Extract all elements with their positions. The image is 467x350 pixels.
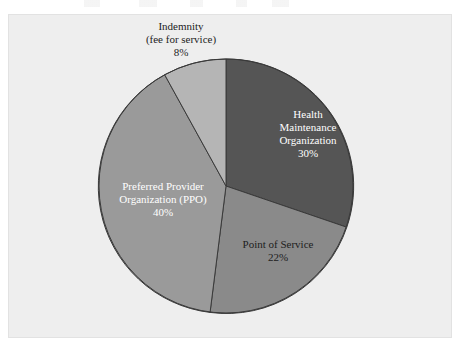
label-value: 30% [248, 147, 368, 160]
pie-label-preferred-provider-organization: Preferred Provider Organization (PPO) 40… [92, 180, 234, 219]
label-line: Indemnity [113, 20, 249, 33]
pie-label-point-of-service: Point of Service 22% [222, 238, 334, 264]
label-line: Health [248, 108, 368, 121]
label-value: 22% [222, 251, 334, 264]
pie-chart-plot-area: Health Maintenance Organization 30% Poin… [0, 0, 467, 350]
label-value: 40% [92, 206, 234, 219]
label-line: Preferred Provider [92, 180, 234, 193]
label-line: Organization [248, 134, 368, 147]
label-line: Point of Service [222, 238, 334, 251]
label-line: (fee for service) [113, 33, 249, 46]
pie-label-health-maintenance-organization: Health Maintenance Organization 30% [248, 108, 368, 160]
pie-label-indemnity-fee-for-service: Indemnity (fee for service) 8% [113, 20, 249, 59]
label-line: Maintenance [248, 121, 368, 134]
label-value: 8% [113, 46, 249, 59]
pie-chart-figure: Health Maintenance Organization 30% Poin… [0, 0, 467, 350]
label-line: Organization (PPO) [92, 193, 234, 206]
